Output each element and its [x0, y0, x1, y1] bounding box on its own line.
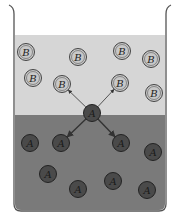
- b-particle: B: [114, 43, 131, 60]
- a-particle-label: A: [56, 138, 64, 149]
- b-particle: B: [70, 49, 87, 66]
- a-particle-label: A: [73, 184, 81, 195]
- b-particle: B: [146, 85, 163, 102]
- b-particle: B: [25, 70, 42, 87]
- b-particle: B: [54, 76, 71, 93]
- a-particle-label: A: [142, 185, 150, 196]
- center-a-label: A: [87, 108, 95, 119]
- a-particle: A: [113, 135, 130, 152]
- b-particle-label: B: [28, 73, 36, 84]
- a-particle: A: [53, 135, 70, 152]
- b-particle-label: B: [146, 54, 154, 65]
- b-particle: B: [112, 75, 129, 92]
- a-particle-label: A: [43, 169, 51, 180]
- b-particle-label: B: [73, 52, 81, 63]
- center-a: A: [84, 105, 101, 122]
- b-particle-label: B: [115, 78, 123, 89]
- a-particle-label: A: [116, 138, 124, 149]
- a-particle-label: A: [148, 147, 156, 158]
- b-particle: B: [143, 51, 160, 68]
- a-particle: A: [105, 173, 122, 190]
- beaker-diagram: BBBBBBBB AAAAAAAA A: [0, 0, 179, 221]
- b-particle-label: B: [117, 46, 125, 57]
- a-particle: A: [145, 144, 162, 161]
- a-particle: A: [40, 166, 57, 183]
- a-particle: A: [139, 182, 156, 199]
- a-particle: A: [70, 181, 87, 198]
- b-particle-label: B: [21, 47, 29, 58]
- a-particle-label: A: [25, 138, 33, 149]
- b-particle-label: B: [149, 88, 157, 99]
- a-particle-label: A: [108, 176, 116, 187]
- b-particle-label: B: [57, 79, 65, 90]
- a-particle: A: [22, 135, 39, 152]
- center-a-particle: A: [84, 105, 101, 122]
- b-particle: B: [18, 44, 35, 61]
